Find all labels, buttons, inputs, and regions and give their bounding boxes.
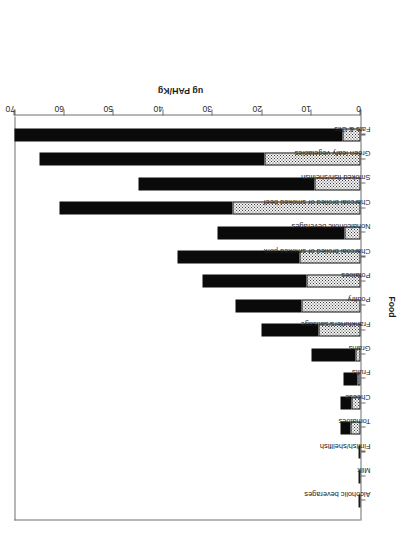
x-axis-tick [360, 426, 365, 427]
x-axis-tick [360, 255, 365, 256]
x-axis-tick [360, 280, 365, 281]
x-axis-category-label: Frankfurters/sausage [300, 319, 370, 327]
rotated-figure-wrapper: 010203040506070 Alcoholic beveragesMilkF… [0, 0, 403, 542]
bar-segment-upper [202, 274, 306, 287]
x-axis-tick [360, 207, 365, 208]
x-axis-tick [360, 133, 365, 134]
x-axis-category-label: Charcoal broiled or smoked beef [263, 197, 370, 205]
bar-chart-figure: 010203040506070 Alcoholic beveragesMilkF… [0, 0, 403, 542]
y-axis-tick-label: 30 [202, 104, 211, 113]
y-axis-tick-label: 40 [153, 104, 162, 113]
x-axis-tick [360, 451, 365, 452]
x-axis-category-label: Finfish/shellfish [319, 441, 370, 449]
x-axis-category-label: Poultry [347, 294, 370, 302]
bar-segment-upper [39, 152, 264, 165]
bar [14, 128, 360, 141]
bar [202, 274, 360, 287]
x-axis-category-label: Tomatoes [338, 416, 370, 424]
x-axis-category-label: Nonalcoholic beverages [291, 221, 370, 229]
x-axis-category-label: Charcoal broiled or smoked pork [263, 246, 370, 254]
y-axis-tick-label: 60 [54, 104, 63, 113]
y-axis-tick-label: 50 [103, 104, 112, 113]
bar-segment-upper [59, 201, 232, 214]
x-axis-tick [360, 499, 365, 500]
chart-page: 010203040506070 Alcoholic beveragesMilkF… [0, 0, 403, 542]
x-axis-category-label: Fruits [352, 368, 370, 376]
x-axis-tick [360, 182, 365, 183]
y-axis-tick-label: 70 [5, 104, 14, 113]
y-axis-tick-label: 0 [355, 104, 360, 113]
x-axis-tick [360, 475, 365, 476]
x-axis-tick [360, 377, 365, 378]
y-axis-tick-label: 10 [301, 104, 310, 113]
x-axis-category-label: Milk [357, 465, 370, 473]
x-axis-category-label: Alcoholic beverages [304, 489, 370, 497]
x-axis-tick [360, 353, 365, 354]
x-axis-category-label: Grains [348, 343, 370, 351]
x-axis-category-label: Potatoes [341, 270, 370, 278]
x-axis-tick [360, 158, 365, 159]
x-axis-category-label: Cheese [345, 392, 370, 400]
x-axis-tick [360, 304, 365, 305]
x-axis-title: Food [386, 296, 396, 317]
bar-segment-upper [138, 177, 314, 190]
bar-segment-upper [235, 299, 301, 312]
x-axis-category-label: Smoked fish/shellfish [301, 172, 370, 180]
bar-segment-upper [14, 128, 342, 141]
y-axis-tick-label: 20 [252, 104, 261, 113]
x-axis-category-label: Fats & Oils [334, 124, 370, 132]
x-axis-tick [360, 329, 365, 330]
x-axis-category-label: Green leafy vegetables [294, 148, 370, 156]
bar [235, 299, 360, 312]
y-axis-title: ug PAH/Kg [157, 85, 202, 95]
x-axis-tick [360, 231, 365, 232]
x-axis-tick [360, 402, 365, 403]
